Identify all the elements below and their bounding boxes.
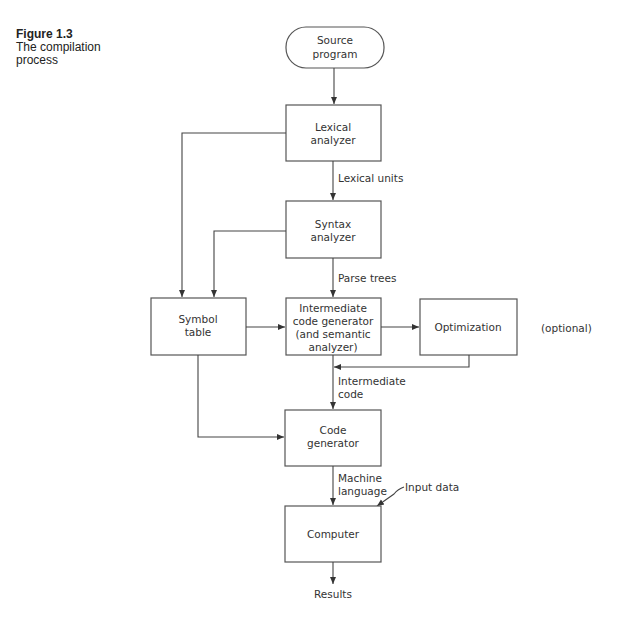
node-syntax-analyzer: Syntax analyzer (286, 201, 381, 258)
node-label: analyzer (311, 231, 357, 243)
node-source-program: Source program (286, 27, 384, 68)
node-label: Computer (307, 528, 360, 540)
node-label: Intermediate (299, 302, 367, 314)
node-label: generator (307, 437, 360, 449)
node-symbol-table: Symbol table (151, 298, 246, 355)
compilation-diagram: Source program Lexical analyzer Lexical … (0, 0, 624, 622)
edge-label-input-data: Input data (405, 481, 459, 493)
node-label: Lexical (315, 121, 351, 133)
node-lexical-analyzer: Lexical analyzer (286, 105, 381, 161)
edge-optimization-return (334, 355, 469, 367)
node-label: Symbol (178, 313, 217, 325)
node-label: program (313, 48, 358, 60)
node-label: analyzer (311, 134, 357, 146)
label-optional: (optional) (541, 322, 592, 334)
edge-label-intermediate-code: code (338, 388, 363, 400)
edge-lexical-symbol (182, 133, 286, 297)
edge-syntax-symbol (214, 231, 286, 297)
node-label: analyzer) (308, 341, 357, 353)
node-label: Optimization (434, 321, 501, 333)
edge-label-lexical-units: Lexical units (338, 172, 403, 184)
node-label: Syntax (315, 218, 351, 230)
node-optimization: Optimization (420, 299, 517, 355)
edge-label-machine-language: Machine (338, 472, 382, 484)
edge-label-machine-language: language (338, 485, 387, 497)
node-label: (and semantic (295, 328, 370, 340)
node-label: table (185, 326, 212, 338)
node-label: code generator (293, 315, 374, 327)
node-label: Source (317, 34, 353, 46)
node-label: Code (320, 424, 347, 436)
label-results: Results (314, 588, 352, 600)
node-intermediate-code-generator: Intermediate code generator (and semanti… (286, 298, 381, 355)
edge-label-intermediate-code: Intermediate (338, 375, 406, 387)
node-computer: Computer (285, 506, 381, 562)
edge-label-parse-trees: Parse trees (338, 272, 396, 284)
node-code-generator: Code generator (285, 410, 381, 466)
edge-symbol-codegen (198, 355, 284, 437)
